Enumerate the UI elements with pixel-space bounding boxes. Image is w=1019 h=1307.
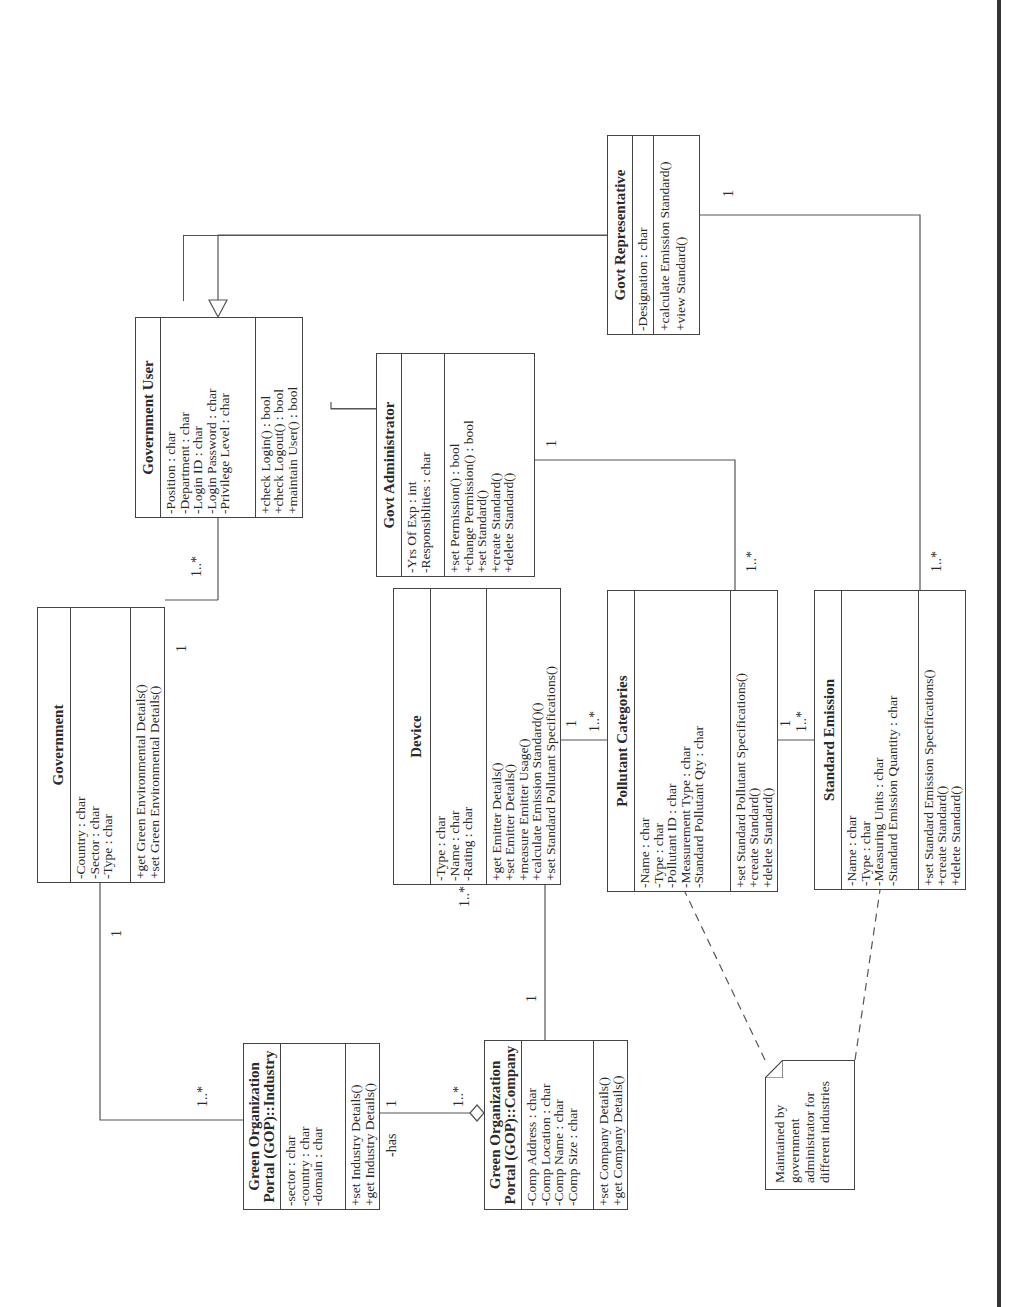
attribute: -Measurement Type : char xyxy=(679,594,693,888)
class-gop-company[interactable]: Green Organization Portal (GOP)::Company… xyxy=(484,1040,628,1210)
multiplicity-label: 1 xyxy=(385,1100,399,1107)
note-box[interactable]: Maintained by government administrator f… xyxy=(765,1060,855,1190)
attribute: -Position : char xyxy=(164,321,178,514)
operation: +set Emitter Details() xyxy=(503,592,517,881)
class-title: Green Organization Portal (GOP)::Company xyxy=(485,1041,522,1209)
attribute: -country : char xyxy=(298,1047,312,1206)
operation: +create Standard() xyxy=(935,594,949,886)
attribute: -Type : char xyxy=(859,594,873,886)
attribute: -Name : char xyxy=(448,592,462,881)
class-standard-emission[interactable]: Standard Emission -Name : char -Type : c… xyxy=(814,590,966,890)
multiplicity-label: 1 xyxy=(565,720,579,727)
attribute: -Login Password : char xyxy=(205,321,219,514)
attributes-compartment: -Yrs Of Exp : int -Responsiblities : cha… xyxy=(402,354,444,576)
operation: +get Emitter Details() xyxy=(490,592,504,881)
operation: +check Login() : bool xyxy=(259,321,273,514)
assoc-government-industry xyxy=(100,883,243,1120)
attribute: -Type : char xyxy=(101,611,115,879)
operation: +get Company Details() xyxy=(611,1044,625,1206)
attributes-compartment: -Name : char -Type : char -Pollutant ID … xyxy=(635,591,730,891)
class-govt-representative[interactable]: Govt Representative -Designation : char … xyxy=(607,135,700,335)
operation: +calculate Emission Standard()() xyxy=(530,592,544,881)
operation: +measure Emitter Usage() xyxy=(517,592,531,881)
attributes-compartment: -Position : char -Department : char -Log… xyxy=(161,318,255,517)
operation: +set Green Environmental Details() xyxy=(148,611,162,879)
operation: +change Permission() : bool xyxy=(462,357,476,573)
note-anchor-pollutant xyxy=(685,892,765,1060)
operation: +set Standard Pollutant Specifications() xyxy=(544,592,558,881)
class-device[interactable]: Device -Type : char -Name : char -Rating… xyxy=(393,588,561,885)
attribute: -Standard Pollutant Qty : char xyxy=(692,594,706,888)
attributes-compartment: -Comp Address : char -Comp Location : ch… xyxy=(522,1041,593,1209)
attribute: -Comp Address : char xyxy=(525,1044,539,1206)
operations-compartment: +check Login() : bool +check Logout() : … xyxy=(255,318,303,517)
attribute: -Measuring Units : char xyxy=(872,594,886,886)
attributes-compartment: -sector : char -country : char -domain :… xyxy=(281,1044,345,1209)
attributes-compartment: -Type : char -Name : char -Rating : char xyxy=(431,589,486,884)
class-title-line: Green Organization xyxy=(247,1046,262,1207)
note-text: different industries xyxy=(817,1067,832,1183)
attribute: -Department : char xyxy=(178,321,192,514)
operation: +create Standard() xyxy=(747,594,761,888)
class-title: Pollutant Categories xyxy=(608,591,635,891)
attribute: -Sector : char xyxy=(88,611,102,879)
class-title: Green Organization Portal (GOP)::Industr… xyxy=(244,1044,281,1209)
admin-generalization-line xyxy=(318,377,376,409)
class-title: Government xyxy=(38,608,71,882)
attributes-compartment: -Country : char -Sector : char -Type : c… xyxy=(71,608,130,882)
class-pollutant-categories[interactable]: Pollutant Categories -Name : char -Type … xyxy=(607,590,778,892)
attribute: -Login ID : char xyxy=(191,321,205,514)
aggregation-diamond-icon xyxy=(470,1105,484,1121)
attribute: -Standard Emission Quantity : char xyxy=(886,594,900,886)
attribute: -Yrs Of Exp : int xyxy=(405,357,419,573)
class-gop-industry[interactable]: Green Organization Portal (GOP)::Industr… xyxy=(243,1043,380,1210)
multiplicity-label: 1..* xyxy=(588,711,602,732)
attribute: -domain : char xyxy=(311,1047,325,1206)
class-title: Government User xyxy=(136,318,161,517)
class-title: Standard Emission xyxy=(815,591,842,889)
note-anchor-emission xyxy=(855,890,880,1060)
class-government[interactable]: Government -Country : char -Sector : cha… xyxy=(37,607,165,883)
operation: +set Permission() : bool xyxy=(448,357,462,573)
operation: +check Logout() : bool xyxy=(272,321,286,514)
multiplicity-label: 1 xyxy=(722,190,736,197)
attribute: -Responsiblities : char xyxy=(419,357,433,573)
note-text: administrator for xyxy=(802,1067,817,1183)
operation: +delete Standard() xyxy=(761,594,775,888)
class-government-user[interactable]: Government User -Position : char -Depart… xyxy=(135,317,303,518)
multiplicity-label: 1 xyxy=(779,720,793,727)
multiplicity-label: 1..* xyxy=(452,1086,466,1107)
operation: +set Standard Emission Specifications() xyxy=(922,594,936,886)
operations-compartment: +set Industry Details() +get Industry De… xyxy=(345,1044,379,1209)
attribute: -Rating : char xyxy=(461,592,475,881)
attribute: -Name : char xyxy=(638,594,652,888)
class-title-line: Green Organization xyxy=(488,1043,503,1207)
operations-compartment: +calculate Emission Standard() +view Sta… xyxy=(653,136,700,334)
uml-class-diagram: Government User -Position : char -Depart… xyxy=(0,0,1019,1307)
association-role-label: -has xyxy=(385,1134,399,1157)
operation: +calculate Emission Standard() xyxy=(657,139,673,331)
note-fold-icon xyxy=(765,1060,783,1078)
assoc-rep-emission xyxy=(700,215,920,590)
admin-generalization-line xyxy=(331,402,376,409)
multiplicity-label: 1..* xyxy=(795,711,809,732)
attribute: -Privilege Level : char xyxy=(218,321,232,514)
class-govt-administrator[interactable]: Govt Administrator -Yrs Of Exp : int -Re… xyxy=(376,353,535,577)
attribute: -Designation : char xyxy=(636,139,650,331)
rep-generalization-line xyxy=(218,235,607,301)
operation: +maintain User() : bool xyxy=(286,321,300,514)
attribute: -Pollutant ID : char xyxy=(665,594,679,888)
attribute: -Type : char xyxy=(652,594,666,888)
multiplicity-label: 1 xyxy=(175,645,189,652)
attribute: -sector : char xyxy=(284,1047,298,1206)
multiplicity-label: 1 xyxy=(110,930,124,937)
attribute: -Comp Name : char xyxy=(552,1044,566,1206)
multiplicity-label: 1..* xyxy=(196,1086,210,1107)
class-title: Device xyxy=(394,589,431,884)
operation: +delete Standard() xyxy=(949,594,963,886)
operation: +get Industry Details() xyxy=(363,1047,377,1206)
operations-compartment: +set Standard Pollutant Specifications()… xyxy=(730,591,778,891)
operations-compartment: +get Emitter Details() +set Emitter Deta… xyxy=(486,589,561,884)
operation: +set Standard() xyxy=(475,357,489,573)
note-text: Maintained by government xyxy=(772,1067,802,1183)
